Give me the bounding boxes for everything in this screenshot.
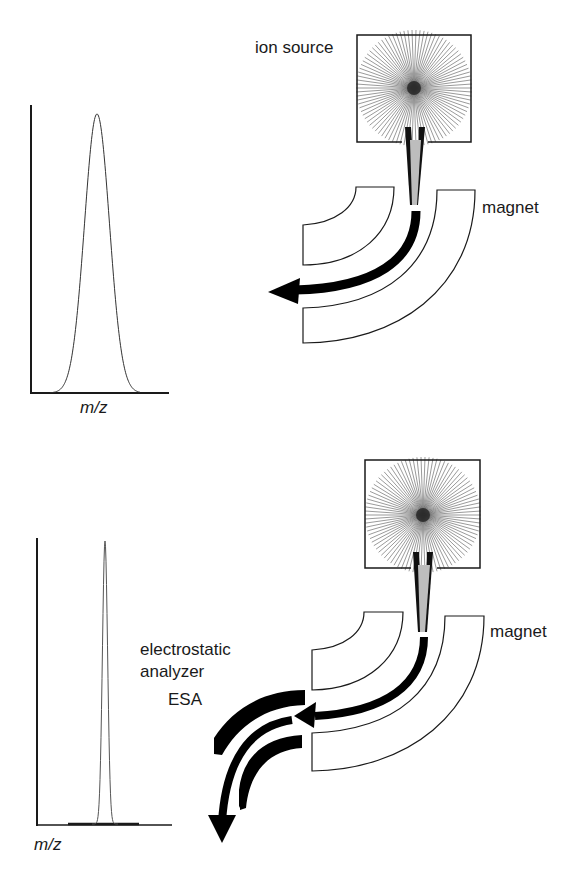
beam-arrowhead-icon (208, 815, 236, 843)
beam-arrowhead-icon (268, 278, 300, 304)
magnet-inner-pole (303, 187, 394, 265)
esa-label-line2: analyzer (140, 662, 204, 682)
broad-peak (50, 114, 140, 393)
spectrum-broad (30, 105, 169, 393)
diagram-canvas (0, 0, 585, 872)
ion-burst-icon (365, 457, 481, 573)
magnet-inner-pole (312, 612, 403, 690)
esa-abbrev-label: ESA (168, 690, 202, 710)
x-axis-label: m/z (80, 398, 107, 418)
x-axis-label: m/z (34, 835, 61, 855)
ion-burst-icon (356, 30, 472, 146)
ion-beam (315, 637, 424, 716)
spectrum-narrow (36, 538, 172, 826)
magnet-label: magnet (482, 198, 539, 218)
ion-source-1 (356, 30, 472, 205)
beam-arrowhead-icon (294, 702, 316, 728)
narrow-peak (92, 541, 118, 824)
esa-label-line1: electrostatic (140, 640, 231, 660)
ion-source-label: ion source (255, 38, 333, 58)
ion-source-2 (365, 457, 481, 632)
magnet-label: magnet (490, 622, 547, 642)
